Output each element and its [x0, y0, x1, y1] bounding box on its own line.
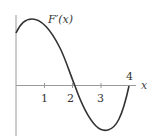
chart: 1 2 3 4 x F′(x): [0, 0, 158, 139]
x-tick-label-4: 4: [126, 70, 133, 83]
function-curve: [16, 19, 129, 130]
x-tick-label-2: 2: [67, 92, 74, 105]
x-tick-label-1: 1: [41, 92, 48, 105]
x-tick-label-3: 3: [97, 92, 104, 105]
x-axis-label: x: [141, 79, 148, 92]
function-label: F′(x): [47, 13, 73, 26]
